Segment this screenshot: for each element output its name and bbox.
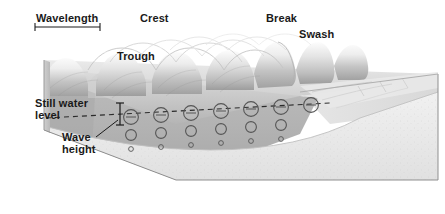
label-swash: Swash xyxy=(299,28,334,40)
breaking-wave-crest xyxy=(254,42,296,88)
breaking-wave-crest xyxy=(296,42,334,84)
wavelength-measure-bracket xyxy=(35,23,100,31)
label-still-water-level: Still water level xyxy=(35,97,88,121)
label-trough: Trough xyxy=(117,50,155,62)
wave-anatomy-figure: Wavelength Crest Trough Break Swash Stil… xyxy=(0,0,445,214)
label-wave-height: Wave height xyxy=(62,131,96,155)
label-break: Break xyxy=(266,12,297,24)
label-wavelength: Wavelength xyxy=(36,12,98,24)
wave-crest xyxy=(152,52,202,94)
label-crest: Crest xyxy=(140,12,169,24)
breaking-wave-crest xyxy=(334,45,368,80)
